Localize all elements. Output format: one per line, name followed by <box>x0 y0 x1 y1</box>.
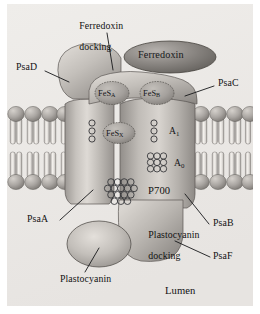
ferredoxin-label: Ferredoxin <box>138 49 184 60</box>
psa-d-label: PsaD <box>16 62 37 73</box>
plastocyanin-docking-label: Plastocyanin docking <box>133 219 200 272</box>
plastocyanin-protein <box>67 221 131 267</box>
psa-c-label: PsaC <box>218 78 239 89</box>
a0-label: A0 <box>174 157 184 169</box>
ferredoxin-docking-label: Ferredoxin docking <box>64 10 123 63</box>
photosystem-i-figure: Ferredoxin docking Ferredoxin PsaD PsaC … <box>0 0 260 314</box>
psa-b-label: PsaB <box>213 218 234 229</box>
psa-f-label: PsaF <box>213 251 232 262</box>
lumen-label: Lumen <box>165 285 196 296</box>
diagram-panel: Ferredoxin docking Ferredoxin PsaD PsaC … <box>7 4 253 306</box>
fes-x-label: FeSX <box>106 129 123 138</box>
p700-label: P700 <box>148 185 170 196</box>
plastocyanin-label: Plastocyanin <box>60 274 111 285</box>
fes-a-label: FeSA <box>98 89 115 98</box>
psa-a-label: PsaA <box>27 214 48 225</box>
a1-label: A1 <box>169 125 179 137</box>
fes-b-label: FeSB <box>143 89 160 98</box>
psa-a-subunit <box>65 99 114 204</box>
